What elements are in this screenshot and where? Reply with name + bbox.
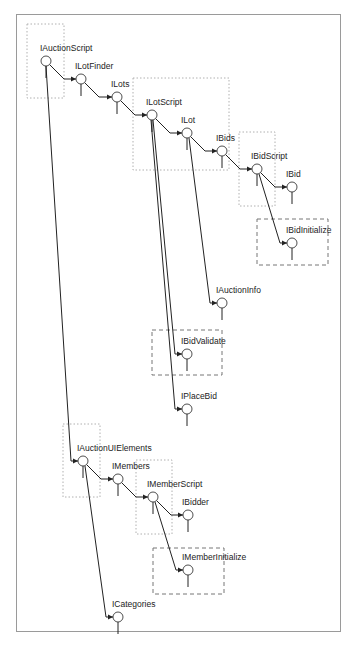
interface-lollipop-icon	[78, 456, 88, 466]
node-ibidinitialize[interactable]: IBidInitialize	[286, 225, 332, 260]
interface-lollipop-icon	[252, 164, 262, 174]
node-ilotfinder[interactable]: ILotFinder	[75, 61, 113, 96]
edge-ilot-to-iauctioninfo	[189, 138, 217, 303]
node-imembers[interactable]: IMembers	[112, 461, 150, 496]
node-label: IBidValidate	[181, 336, 226, 346]
interface-lollipop-icon	[41, 56, 51, 66]
node-ibid[interactable]: IBid	[286, 169, 301, 204]
node-label: IBidScript	[251, 151, 288, 161]
interface-lollipop-icon	[183, 510, 193, 520]
edge-ilot-to-ibids	[191, 137, 218, 152]
interface-lollipop-icon	[183, 565, 193, 575]
edge-imemberscript-to-imemberinitialize	[155, 502, 183, 570]
node-label: IBid	[286, 169, 301, 179]
edge-imemberscript-to-ibidder	[157, 501, 184, 516]
node-ibidscript[interactable]: IBidScript	[251, 151, 288, 186]
node-ibidvalidate[interactable]: IBidValidate	[181, 336, 226, 371]
node-iplacebid[interactable]: IPlaceBid	[181, 391, 217, 426]
edge-ibidscript-to-ibid	[261, 173, 288, 188]
node-label: IPlaceBid	[181, 391, 217, 401]
edge-ilotfinder-to-ilots	[85, 83, 113, 98]
node-label: IBidder	[182, 497, 209, 507]
node-label: IAuctionInfo	[216, 285, 261, 295]
interface-lollipop-icon	[217, 146, 227, 156]
node-ilots[interactable]: ILots	[111, 79, 129, 114]
interface-lollipop-icon	[148, 492, 158, 502]
node-label: ILot	[181, 115, 196, 125]
node-iauctioninfo[interactable]: IAuctionInfo	[216, 285, 261, 320]
edge-iauctionuielements-to-icategories	[85, 466, 113, 617]
interface-lollipop-icon	[182, 349, 192, 359]
node-label: ILotScript	[146, 97, 183, 107]
edge-iauctionscript-to-iauctionuielements	[46, 66, 78, 461]
interface-lollipop-icon	[217, 298, 227, 308]
interface-lollipop-icon	[287, 238, 297, 248]
edge-iauctionscript-to-ilotfinder	[50, 65, 77, 80]
interface-lollipop-icon	[113, 612, 123, 622]
interface-diagram: IAuctionScriptILotFinderILotsILotScriptI…	[0, 0, 352, 646]
edge-ilotscript-to-ilot	[156, 119, 183, 134]
interface-lollipop-icon	[112, 92, 122, 102]
node-label: IBidInitialize	[286, 225, 332, 235]
node-label: ICategories	[112, 599, 155, 609]
edge-ilots-to-ilotscript	[121, 101, 148, 116]
node-label: IAuctionScript	[40, 43, 93, 53]
interface-lollipop-icon	[287, 182, 297, 192]
node-label: IBids	[216, 133, 235, 143]
node-ibidder[interactable]: IBidder	[182, 497, 209, 532]
interface-lollipop-icon	[113, 474, 123, 484]
interface-lollipop-icon	[182, 404, 192, 414]
node-label: IAuctionUIElements	[77, 443, 152, 453]
edge-imembers-to-imemberscript	[122, 483, 149, 498]
node-label: IMembers	[112, 461, 150, 471]
node-ibids[interactable]: IBids	[216, 133, 235, 168]
node-icategories[interactable]: ICategories	[112, 599, 155, 634]
node-ilot[interactable]: ILot	[181, 115, 196, 150]
node-label: IMemberInitialize	[182, 552, 247, 562]
interface-lollipop-icon	[147, 110, 157, 120]
interface-lollipop-icon	[76, 74, 86, 84]
node-imemberinitialize[interactable]: IMemberInitialize	[182, 552, 247, 587]
node-label: IMemberScript	[147, 479, 203, 489]
interface-lollipop-icon	[182, 128, 192, 138]
node-label: ILotFinder	[75, 61, 113, 71]
node-label: ILots	[111, 79, 129, 89]
